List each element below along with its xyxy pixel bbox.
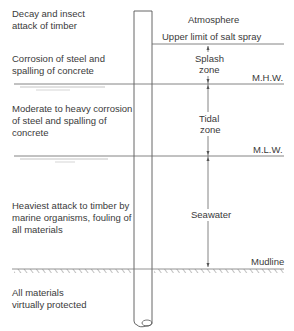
label-splash-2: zone — [199, 64, 220, 76]
mud-hatching-left — [14, 269, 132, 273]
label-upper-limit: Upper limit of salt spray — [162, 31, 261, 43]
zone-desc-splash: Corrosion of steel and spalling of concr… — [12, 53, 105, 77]
label-seawater: Seawater — [191, 209, 231, 221]
zone-desc-tidal: Moderate to heavy corrosion of steel and… — [12, 103, 132, 139]
label-mlw: M.L.W. — [253, 144, 283, 156]
zone-desc-atmosphere: Decay and insect attack of timber — [12, 8, 85, 32]
zone-desc-seawater: Heaviest attack to timber by marine orga… — [12, 200, 131, 236]
label-tidal-2: zone — [200, 124, 221, 136]
zone-desc-mud: All materials virtually protected — [12, 287, 86, 311]
mud-hatching-right — [154, 269, 284, 273]
pile — [134, 11, 152, 327]
label-mudline: Mudline — [251, 256, 284, 268]
label-mhw: M.H.W. — [252, 72, 283, 84]
label-atmosphere: Atmosphere — [188, 14, 239, 26]
diagram-canvas — [0, 0, 294, 331]
